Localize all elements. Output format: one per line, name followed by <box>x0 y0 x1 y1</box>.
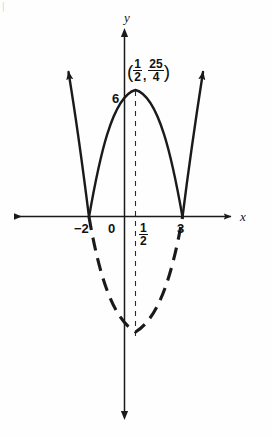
y-intercept-label-6: 6 <box>112 92 119 105</box>
vertex-open-paren: ( <box>127 62 133 81</box>
y-axis-label: y <box>124 11 130 24</box>
vertex-comma: , <box>142 70 148 82</box>
x-tick-label-minus2: −2 <box>74 222 89 235</box>
fraction-denominator: 2 <box>139 235 148 247</box>
x-tick-label-origin: 0 <box>108 222 115 235</box>
x-axis <box>14 213 231 220</box>
vertex-coordinate-label: ( 1 2 , 25 4 ) <box>127 58 170 84</box>
y-axis <box>121 28 128 420</box>
vertex-close-paren: ) <box>164 62 170 81</box>
x-tick-label-one-half: 1 2 <box>139 222 148 248</box>
vertex-y-numerator: 25 <box>148 58 163 71</box>
fraction-one-half: 1 2 <box>139 222 148 248</box>
vertex-y-fraction: 25 4 <box>148 58 163 84</box>
x-axis-label: x <box>240 210 246 223</box>
vertex-x-denominator: 2 <box>133 71 142 83</box>
fraction-numerator: 1 <box>139 222 148 235</box>
graph-figure: │ <box>0 0 271 437</box>
vertex-x-fraction: 1 2 <box>133 58 142 84</box>
vertex-x-numerator: 1 <box>133 58 142 71</box>
vertex-y-denominator: 4 <box>148 71 163 83</box>
x-tick-label-three: 3 <box>177 222 184 235</box>
